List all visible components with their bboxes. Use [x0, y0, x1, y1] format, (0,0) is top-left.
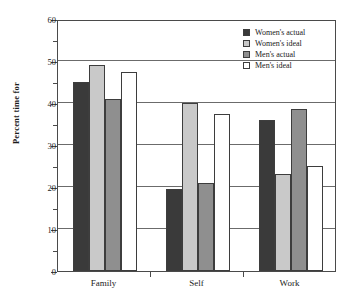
bar-chart-figure: Percent time for 0102030405060 FamilySel… [0, 0, 355, 297]
y-tick-label-20: 20 [16, 184, 56, 193]
x-category-label-work: Work [250, 278, 330, 288]
x-tick-mark-1 [150, 272, 151, 277]
bar-work-men-s-ideal [307, 166, 323, 271]
legend-item-label: Women's ideal [255, 40, 302, 48]
y-tick-label-60: 60 [16, 16, 56, 25]
bar-self-men-s-ideal [214, 114, 230, 272]
y-tick-label-40: 40 [16, 100, 56, 109]
bar-self-men-s-actual [198, 183, 214, 271]
legend-item-women-s-ideal[interactable]: Women's ideal [243, 38, 331, 49]
bar-family-men-s-ideal [121, 72, 137, 272]
y-tick-label-0: 0 [16, 268, 56, 277]
x-tick-mark-2 [243, 272, 244, 277]
bar-work-men-s-actual [291, 109, 307, 271]
legend-item-men-s-actual[interactable]: Men's actual [243, 49, 331, 60]
legend-item-label: Men's actual [255, 51, 295, 59]
bar-family-men-s-actual [105, 99, 121, 271]
bar-family-women-s-actual [73, 82, 89, 271]
bar-work-women-s-actual [259, 120, 275, 271]
legend-swatch-icon [243, 51, 250, 58]
chart-legend: Women's actualWomen's idealMen's actualM… [243, 27, 331, 71]
bar-family-women-s-ideal [89, 65, 105, 271]
legend-swatch-icon [243, 62, 250, 69]
legend-item-label: Men's ideal [255, 62, 292, 70]
x-category-label-family: Family [64, 278, 144, 288]
y-tick-label-30: 30 [16, 142, 56, 151]
bar-self-women-s-ideal [182, 103, 198, 271]
legend-item-women-s-actual[interactable]: Women's actual [243, 27, 331, 38]
bar-work-women-s-ideal [275, 174, 291, 271]
legend-item-label: Women's actual [255, 29, 305, 37]
legend-swatch-icon [243, 40, 250, 47]
legend-item-men-s-ideal[interactable]: Men's ideal [243, 60, 331, 71]
y-tick-label-50: 50 [16, 58, 56, 67]
y-tick-label-10: 10 [16, 226, 56, 235]
y-axis-title: Percent time for [11, 53, 21, 173]
bar-self-women-s-actual [166, 189, 182, 271]
legend-swatch-icon [243, 29, 250, 36]
x-category-label-self: Self [157, 278, 237, 288]
